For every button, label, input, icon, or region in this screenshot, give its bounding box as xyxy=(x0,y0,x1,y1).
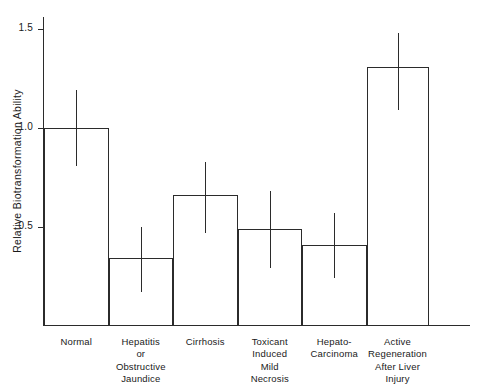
bar xyxy=(109,259,173,326)
x-axis-category-label-line: Regeneration xyxy=(348,348,448,360)
bars-group xyxy=(45,68,429,326)
x-axis-category-label: ActiveRegenerationAfter LiverInjury xyxy=(348,336,448,386)
x-axis-category-label-line: After Liver xyxy=(348,361,448,373)
x-axis-category-label-line: Active xyxy=(348,336,448,348)
bar xyxy=(238,230,302,326)
bar xyxy=(367,68,428,326)
x-axis-category-label-line: or xyxy=(91,348,191,360)
x-axis-category-label-line: Obstructive xyxy=(91,361,191,373)
x-axis-category-label-line: Mild xyxy=(220,361,320,373)
axes-group xyxy=(44,17,471,326)
y-axis-ticks xyxy=(38,30,44,228)
x-axis-category-label-line: Necrosis xyxy=(220,373,320,385)
x-axis-category-label-line: Injury xyxy=(348,373,448,385)
x-axis-category-label-line: Jaundice xyxy=(91,373,191,385)
